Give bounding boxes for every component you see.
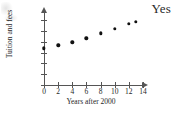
data-point (127, 22, 130, 25)
x-axis-tick-label: 10 (111, 88, 119, 96)
y-axis-tick (41, 53, 47, 54)
data-point (85, 37, 88, 40)
y-axis-arrow-icon (41, 7, 47, 13)
answer-label: Yes (151, 1, 171, 17)
x-axis-tick-label: 14 (139, 88, 147, 96)
y-axis-tick (41, 20, 47, 21)
data-point (113, 27, 116, 30)
data-point (71, 41, 74, 44)
data-point (56, 43, 59, 46)
x-axis-tick-label: 6 (85, 88, 89, 96)
scatter-plot: Tuition and fees Years after 2000 05,000… (0, 0, 150, 118)
chart-screenshot: Yes Tuition and fees Years after 2000 05… (0, 0, 177, 118)
x-axis-tick-label: 0 (42, 88, 46, 96)
data-point (99, 32, 102, 35)
y-axis-tick (41, 63, 47, 64)
x-axis-tick-label: 12 (125, 88, 133, 96)
data-point (134, 20, 137, 23)
x-axis-tick-label: 4 (70, 88, 74, 96)
x-axis-tick-label: 2 (56, 88, 60, 96)
x-axis-tick-label: 8 (99, 88, 103, 96)
x-axis-title: Years after 2000 (36, 97, 146, 106)
y-axis-tick (41, 31, 47, 32)
y-axis-tick (41, 74, 47, 75)
data-point (42, 47, 45, 50)
y-axis-title: Tuition and fees (6, 3, 14, 65)
y-axis-tick (41, 42, 47, 43)
